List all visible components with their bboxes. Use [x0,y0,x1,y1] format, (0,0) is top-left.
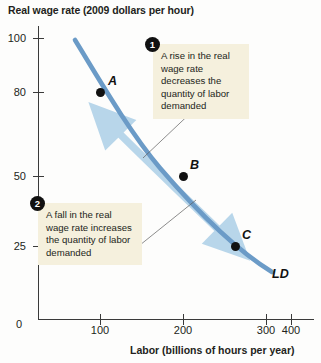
datapoint-b [179,172,188,181]
y-axis-title: Real wage rate (2009 dollars per hour) [8,4,194,16]
origin-label: 0 [16,318,22,330]
y-axis-line [38,26,39,320]
y-tick-50: 50 [33,176,44,177]
x-tick-label-100: 100 [91,324,109,336]
x-tick-label-400: 400 [282,324,300,336]
y-tick-100: 100 [33,38,44,39]
x-tick-200: 200 [183,314,184,325]
x-axis-title: Labor (billions of hours per year) [130,344,295,356]
labor-demand-chart: Real wage rate (2009 dollars per hour) 1… [0,0,321,363]
y-tick-80: 80 [33,92,44,93]
y-tick-label-25: 25 [14,240,26,252]
y-tick-label-80: 80 [14,86,26,98]
curve-label-ld: LD [272,267,289,281]
point-label-b: B [190,158,199,172]
x-tick-400: 400 [291,314,292,325]
datapoint-a [96,88,105,97]
x-tick-label-200: 200 [174,324,192,336]
x-tick-300: 300 [266,314,267,325]
point-label-c: C [242,228,251,242]
point-label-a: A [108,74,117,88]
annotation-1-text: A rise in the real wage rate decreases t… [161,50,230,111]
annotation-callout-2: A fall in the real wage rate increases t… [38,203,142,265]
x-tick-label-300: 300 [257,324,275,336]
x-axis-line [38,319,314,320]
datapoint-c [231,242,240,251]
annotation-2-text: A fall in the real wage rate increases t… [46,209,132,258]
y-tick-label-50: 50 [14,170,26,182]
x-tick-100: 100 [100,314,101,325]
annotation-callout-1: A rise in the real wage rate decreases t… [153,44,249,119]
annotation-badge-1: 1 [145,37,160,52]
y-tick-label-100: 100 [8,32,26,44]
annotation-badge-2: 2 [30,196,45,211]
